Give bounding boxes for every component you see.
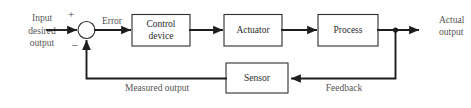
signal-label-feedback: Feedback (326, 83, 363, 93)
output-label-line1: Actual (439, 15, 465, 25)
input-label-line1: Input (32, 13, 52, 23)
block-actuator[interactable]: Actuator (224, 15, 282, 47)
block-sensor-label: Sensor (244, 73, 271, 83)
summing-junction (78, 22, 95, 39)
block-control-device-label-line1: Control (146, 19, 175, 29)
summing-junction-plus-sign: + (68, 8, 74, 20)
block-process[interactable]: Process (318, 15, 378, 47)
block-sensor[interactable]: Sensor (226, 63, 288, 93)
block-process-label: Process (333, 25, 362, 35)
block-control-device[interactable]: Control device (132, 15, 190, 47)
input-label-line3: output (30, 38, 55, 48)
signal-label-error: Error (102, 16, 123, 26)
output-label-group: Actual output (439, 15, 465, 38)
block-actuator-label: Actuator (236, 25, 270, 35)
summing-junction-minus-sign: – (71, 38, 78, 50)
signal-label-measured-output: Measured output (125, 83, 189, 93)
wire-measured-output-to-sum (87, 41, 227, 79)
block-control-device-label-line2: device (149, 31, 174, 41)
block-diagram-svg: Input desired output + – Error Control d… (0, 0, 471, 108)
output-label-line2: output (439, 27, 464, 37)
block-diagram-canvas: Input desired output + – Error Control d… (0, 0, 471, 108)
